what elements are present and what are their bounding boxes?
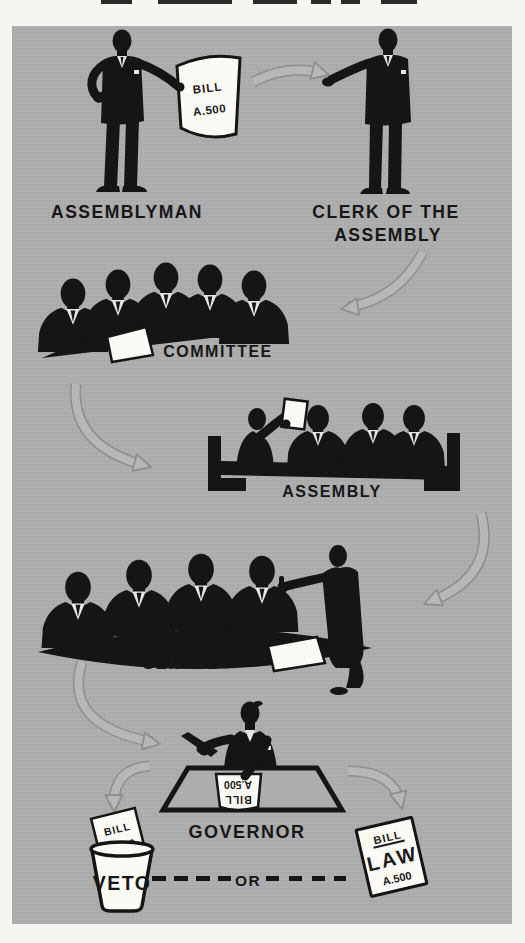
governor-label: GOVERNOR — [188, 822, 305, 842]
page: BILL A.500 ASSEMBLYMAN CLERK OF THE ASSE… — [0, 0, 525, 943]
clerk-label-line1: CLERK OF THE — [312, 202, 459, 222]
assembly-label: ASSEMBLY — [282, 483, 381, 500]
bill-becomes-law-diagram: BILL A.500 ASSEMBLYMAN CLERK OF THE ASSE… — [0, 0, 525, 943]
assemblyman-label: ASSEMBLYMAN — [51, 202, 203, 222]
governor-desk-paper: BILL A.500 — [216, 774, 261, 810]
veto-wastebasket: VETO — [91, 842, 153, 911]
senate-label: SENATE — [143, 654, 220, 673]
clerk-label-line2: ASSEMBLY — [334, 225, 442, 245]
assemblyman-bill-paper: BILL A.500 — [176, 56, 241, 137]
committee-label: COMMITTEE — [163, 343, 273, 360]
veto-label: VETO — [93, 872, 152, 894]
desk-paper-line2: A.500 — [224, 779, 252, 791]
desk-paper-line1: BILL — [224, 794, 251, 806]
cropped-title-fragment — [101, 0, 417, 4]
assembly-reader-hand — [282, 420, 291, 429]
or-label: OR — [235, 872, 261, 889]
